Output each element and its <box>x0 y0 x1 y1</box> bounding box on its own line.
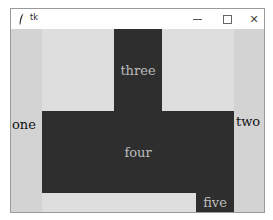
close-icon: ✕ <box>249 13 258 26</box>
label-one-cell: one <box>11 29 42 212</box>
client-area: one two three four five <box>11 29 264 212</box>
tk-window: tk ✕ one two three four five <box>10 8 265 213</box>
label-four: four <box>42 146 234 160</box>
label-five-block: five <box>196 193 234 212</box>
label-three: three <box>114 64 162 78</box>
label-five: five <box>196 196 234 210</box>
minimize-icon <box>193 19 202 20</box>
title-bar[interactable]: tk ✕ <box>11 9 264 29</box>
label-four-block: four <box>42 111 234 193</box>
maximize-icon <box>223 15 232 24</box>
label-two-cell: two <box>234 29 264 212</box>
label-three-block: three <box>114 29 162 111</box>
minimize-button[interactable] <box>182 9 212 29</box>
maximize-button[interactable] <box>212 9 242 29</box>
label-one: one <box>12 118 36 132</box>
window-title: tk <box>30 13 38 22</box>
label-two: two <box>236 115 260 129</box>
feather-icon <box>19 13 24 25</box>
close-button[interactable]: ✕ <box>239 9 269 29</box>
